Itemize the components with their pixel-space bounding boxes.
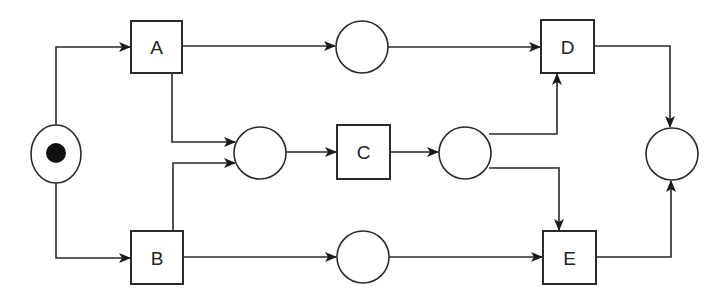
arc-start-to-B bbox=[56, 183, 130, 258]
transition-E: E bbox=[543, 231, 596, 284]
transition-D: D bbox=[541, 20, 594, 73]
transition-C: C bbox=[337, 125, 390, 179]
transition-A: A bbox=[131, 21, 182, 73]
transition-label: A bbox=[150, 37, 163, 58]
place-p-top bbox=[336, 21, 388, 73]
place-p-start bbox=[31, 125, 81, 183]
place-p-bottom bbox=[337, 231, 389, 283]
arc-E-to-place-end bbox=[596, 181, 671, 257]
arc-B-to-place-mid-left bbox=[173, 163, 235, 231]
transition-B: B bbox=[131, 231, 183, 284]
place-p-mid-left bbox=[234, 127, 286, 179]
transition-label: B bbox=[151, 248, 164, 269]
token bbox=[46, 143, 66, 163]
transition-label: C bbox=[357, 142, 371, 163]
place-p-end bbox=[646, 128, 698, 180]
arc-place-mid-right-to-D bbox=[489, 74, 557, 134]
arc-place-mid-right-to-E bbox=[489, 168, 559, 230]
place-p-mid-right bbox=[439, 127, 491, 179]
arc-A-to-place-mid-left bbox=[172, 73, 235, 142]
transition-label: E bbox=[563, 248, 576, 269]
arc-start-to-A bbox=[56, 47, 130, 125]
petri-net-diagram: ABCDE bbox=[0, 0, 725, 302]
arc-D-to-place-end bbox=[594, 46, 670, 127]
transition-label: D bbox=[561, 37, 575, 58]
